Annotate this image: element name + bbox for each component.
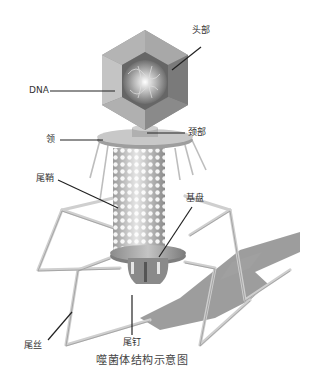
label-sheath: 尾鞘 <box>36 174 54 183</box>
label-collar: 领 <box>46 135 55 144</box>
label-neck: 颈部 <box>188 128 206 137</box>
label-baseplate: 基盘 <box>186 194 204 203</box>
diagram-title: 噬菌体结构示意图 <box>96 355 188 366</box>
label-head: 头部 <box>192 26 210 35</box>
label-dna: DNA <box>29 86 49 95</box>
tail-sheath <box>113 148 165 250</box>
baseplate <box>110 245 186 284</box>
label-tail-pin: 尾钉 <box>123 338 141 347</box>
head-capsid <box>102 30 188 130</box>
phage-diagram <box>0 0 329 389</box>
label-tail-fiber: 尾丝 <box>24 341 42 350</box>
